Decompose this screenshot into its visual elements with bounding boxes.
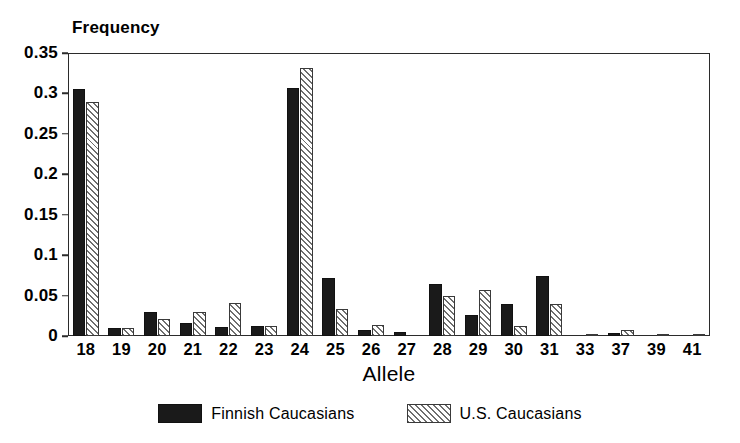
y-axis-ticks: 00.050.10.150.20.250.30.35 xyxy=(0,0,68,443)
x-axis-tick-label: 25 xyxy=(318,340,354,359)
bar-group xyxy=(532,53,568,336)
y-axis-title: Frequency xyxy=(72,18,160,38)
bar-group xyxy=(175,53,211,336)
bar xyxy=(501,304,514,336)
bar xyxy=(608,333,621,336)
bar-group xyxy=(68,53,104,336)
bar-chart-figure: Frequency 00.050.10.150.20.250.30.35 181… xyxy=(0,0,740,443)
bar xyxy=(536,276,549,336)
x-axis-tick-label: 22 xyxy=(211,340,247,359)
bar xyxy=(108,328,121,336)
x-axis-title: Allele xyxy=(68,362,710,386)
bar xyxy=(265,326,278,337)
y-axis-tick-label: 0.35 xyxy=(24,43,58,63)
bar xyxy=(657,334,670,336)
bar xyxy=(215,327,228,336)
bar xyxy=(229,303,242,336)
chart-legend: Finnish Caucasians U.S. Caucasians xyxy=(0,404,740,423)
bar-group xyxy=(282,53,318,336)
bar xyxy=(193,312,206,336)
bar-group xyxy=(246,53,282,336)
y-axis-tick-label: 0.1 xyxy=(34,245,58,265)
x-axis-tick-label: 33 xyxy=(567,340,603,359)
y-axis-tick-label: 0.15 xyxy=(24,205,58,225)
legend-item-finnish: Finnish Caucasians xyxy=(158,404,354,423)
x-axis-tick-label: 28 xyxy=(425,340,461,359)
x-axis-tick-label: 21 xyxy=(175,340,211,359)
x-axis-tick-label: 20 xyxy=(139,340,175,359)
bar xyxy=(621,330,634,336)
bar-group xyxy=(496,53,532,336)
bar-group xyxy=(353,53,389,336)
bar-group xyxy=(211,53,247,336)
y-axis-tick-label: 0.05 xyxy=(24,286,58,306)
x-axis-tick-label: 31 xyxy=(532,340,568,359)
bar xyxy=(180,323,193,336)
bar-group xyxy=(639,53,675,336)
x-axis-tick-label: 39 xyxy=(639,340,675,359)
legend-swatch-finnish xyxy=(158,404,202,423)
bar xyxy=(122,328,135,336)
bar-group xyxy=(603,53,639,336)
bar xyxy=(693,334,706,336)
bar xyxy=(514,326,527,336)
bar xyxy=(73,89,86,336)
x-axis-tick-label: 26 xyxy=(353,340,389,359)
x-axis-tick-label: 24 xyxy=(282,340,318,359)
bar-group xyxy=(460,53,496,336)
bar xyxy=(287,88,300,336)
bars-layer xyxy=(68,53,710,336)
bar-group xyxy=(674,53,710,336)
bar xyxy=(586,334,599,336)
bar-group xyxy=(318,53,354,336)
bar xyxy=(300,68,313,336)
bar xyxy=(144,312,157,336)
bar xyxy=(372,325,385,336)
bar-group xyxy=(139,53,175,336)
x-axis-tick-label: 41 xyxy=(674,340,710,359)
x-axis-tick-label: 37 xyxy=(603,340,639,359)
y-axis-tick-label: 0 xyxy=(48,326,58,346)
x-axis-tick-label: 18 xyxy=(68,340,104,359)
bar xyxy=(394,332,407,336)
bar xyxy=(251,326,264,336)
legend-item-us: U.S. Caucasians xyxy=(407,404,582,423)
x-axis-tick-label: 29 xyxy=(460,340,496,359)
legend-label-finnish: Finnish Caucasians xyxy=(211,405,354,423)
bar-group xyxy=(104,53,140,336)
bar-group xyxy=(389,53,425,336)
x-axis-tick-label: 19 xyxy=(104,340,140,359)
y-axis-tick-label: 0.2 xyxy=(34,164,58,184)
legend-label-us: U.S. Caucasians xyxy=(460,405,582,423)
bar xyxy=(358,330,371,336)
bar xyxy=(479,290,492,336)
bar xyxy=(322,278,335,336)
bar xyxy=(465,315,478,336)
legend-swatch-us xyxy=(407,404,451,423)
bar-group xyxy=(567,53,603,336)
bar xyxy=(158,319,171,336)
x-axis-tick-label: 30 xyxy=(496,340,532,359)
x-axis-tick-label: 23 xyxy=(246,340,282,359)
bar xyxy=(429,284,442,336)
bar xyxy=(550,304,563,336)
bar xyxy=(443,296,456,336)
x-axis-tick-label: 27 xyxy=(389,340,425,359)
bar xyxy=(86,102,99,336)
y-axis-tick-label: 0.25 xyxy=(24,124,58,144)
bar xyxy=(336,309,349,336)
y-axis-tick-label: 0.3 xyxy=(34,83,58,103)
bar-group xyxy=(425,53,461,336)
